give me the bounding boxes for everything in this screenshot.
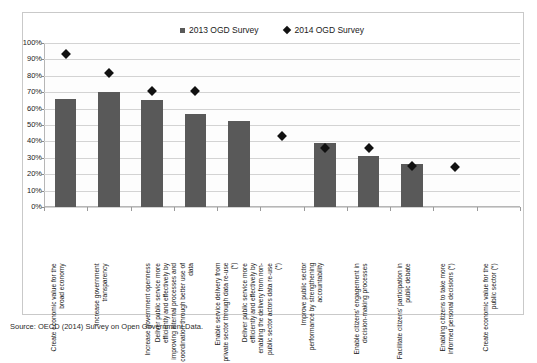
x-axis-category-label: Enabling citizens to take more informed … [433, 211, 476, 315]
bar [55, 99, 77, 207]
y-axis-tick-label: 80% [4, 72, 42, 80]
x-axis-category-label-text: Create economic value for the broad econ… [49, 263, 65, 363]
x-axis-category-label-text: Enable citizens' engagement in decision-… [352, 263, 368, 363]
x-axis-category-label-text: Facilitate citizens' participation in pu… [395, 263, 411, 363]
diamond-marker-icon [283, 26, 291, 34]
plot-area [44, 43, 520, 207]
y-axis-tick-label: 70% [4, 88, 42, 96]
x-axis-category-label: Deliver public service more efficiently … [174, 211, 217, 315]
y-axis: 0%10%20%30%40%50%60%70%80%90%100% [0, 43, 42, 207]
x-axis-category-label-text: Deliver public service more efficiently … [241, 263, 282, 363]
y-axis-tick-label: 20% [4, 170, 42, 178]
bar [228, 121, 250, 207]
legend-label-2014: 2014 OGD Survey [294, 26, 363, 35]
x-axis-category-label-text: Increase government transparency [92, 263, 108, 363]
x-axis-category-label: Deliver public service more efficiently … [260, 211, 303, 315]
y-axis-tick-label: 0% [4, 203, 42, 211]
x-axis-category-label: Improve public sector performance by str… [304, 211, 347, 315]
bar [185, 114, 207, 207]
legend-label-2013: 2013 OGD Survey [189, 26, 258, 35]
y-axis-tick-label: 10% [4, 187, 42, 195]
gridline [44, 76, 520, 77]
square-marker-icon [180, 28, 185, 33]
y-axis-tick-label: 40% [4, 138, 42, 146]
chart-legend: 2013 OGD Survey 2014 OGD Survey [180, 23, 364, 37]
y-axis-tick-label: 50% [4, 121, 42, 129]
x-axis-category-label-text: Enable service delivery from private sec… [214, 263, 239, 363]
bar [141, 100, 163, 207]
x-axis-tick-mark [520, 207, 521, 211]
y-axis-tick-label: 100% [4, 39, 42, 47]
bar [98, 92, 120, 207]
y-axis-tick-label: 90% [4, 56, 42, 64]
x-axis-category-label: Enable citizens' engagement in decision-… [347, 211, 390, 315]
x-axis-category-label: Facilitate citizens' participation in pu… [390, 211, 433, 315]
source-note: Source: OECD (2014) Survey on Open Gover… [10, 322, 530, 333]
x-axis-category-label: Create economic value for the public sec… [477, 211, 520, 315]
x-axis-category-label-text: Increase government openness [144, 263, 152, 363]
gridline [44, 43, 520, 44]
x-axis-category-label: Increase government transparency [87, 211, 130, 315]
y-axis-tick-label: 60% [4, 105, 42, 113]
y-axis-tick-label: 30% [4, 154, 42, 162]
bar [358, 156, 380, 207]
x-axis-category-labels: Create economic value for the broad econ… [44, 211, 520, 315]
legend-entry-2013: 2013 OGD Survey [180, 26, 258, 35]
x-axis-category-label-text: Enabling citizens to take more informed … [439, 263, 455, 363]
gridline [44, 59, 520, 60]
x-axis-category-label-text: Improve public sector performance by str… [301, 263, 326, 363]
x-axis-category-label: Create economic value for the broad econ… [44, 211, 87, 315]
x-axis-category-label-text: Deliver public service more efficiently … [154, 263, 195, 363]
x-axis-category-label-text: Create economic value for the public sec… [482, 263, 498, 363]
legend-entry-2014: 2014 OGD Survey [284, 26, 363, 35]
